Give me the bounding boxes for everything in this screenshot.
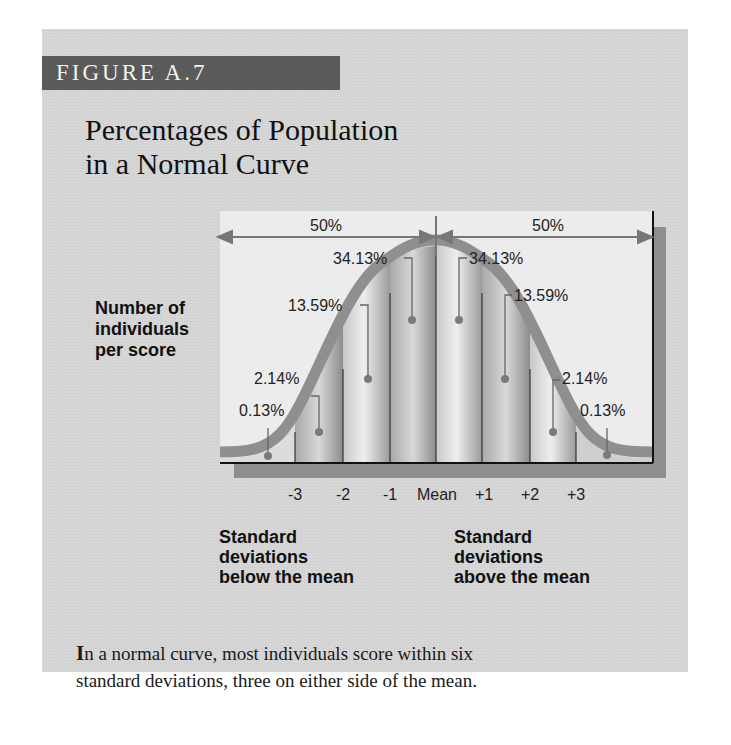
pct-label-seg7: 0.13%	[580, 402, 625, 419]
pct-label-seg0: 0.13%	[239, 402, 284, 419]
below-mean-label-line: deviations	[219, 547, 354, 567]
above-mean-label: Standard deviations above the mean	[454, 527, 590, 587]
pct-label-seg1: 2.14%	[254, 370, 299, 387]
x-tick: Mean	[417, 486, 457, 503]
half-label-left: 50%	[310, 217, 342, 234]
x-tick: -2	[336, 486, 350, 503]
caption-line-1: n a normal curve, most individuals score…	[84, 643, 473, 664]
pct-label-seg5: 13.59%	[514, 287, 568, 304]
x-tick: +3	[567, 486, 585, 503]
above-mean-label-line: above the mean	[454, 567, 590, 587]
figure-caption: In a normal curve, most individuals scor…	[76, 640, 676, 694]
normal-curve-chart: 50% 50% 0.13% 2.14% 13.59% 34.13% 34.13%…	[0, 0, 731, 745]
below-mean-label-line: below the mean	[219, 567, 354, 587]
pct-label-seg6: 2.14%	[562, 370, 607, 387]
x-tick: +1	[475, 486, 493, 503]
x-tick: -1	[383, 486, 397, 503]
caption-line-2: standard deviations, three on either sid…	[76, 667, 676, 694]
caption-dropcap: I	[76, 641, 84, 665]
x-tick: -3	[288, 486, 302, 503]
half-label-right: 50%	[532, 217, 564, 234]
above-mean-label-line: deviations	[454, 547, 590, 567]
below-mean-label-line: Standard	[219, 527, 354, 547]
pct-label-seg2: 13.59%	[288, 297, 342, 314]
below-mean-label: Standard deviations below the mean	[219, 527, 354, 587]
pct-label-seg4: 34.13%	[469, 250, 523, 267]
above-mean-label-line: Standard	[454, 527, 590, 547]
x-tick: +2	[521, 486, 539, 503]
pct-label-seg3: 34.13%	[333, 250, 387, 267]
